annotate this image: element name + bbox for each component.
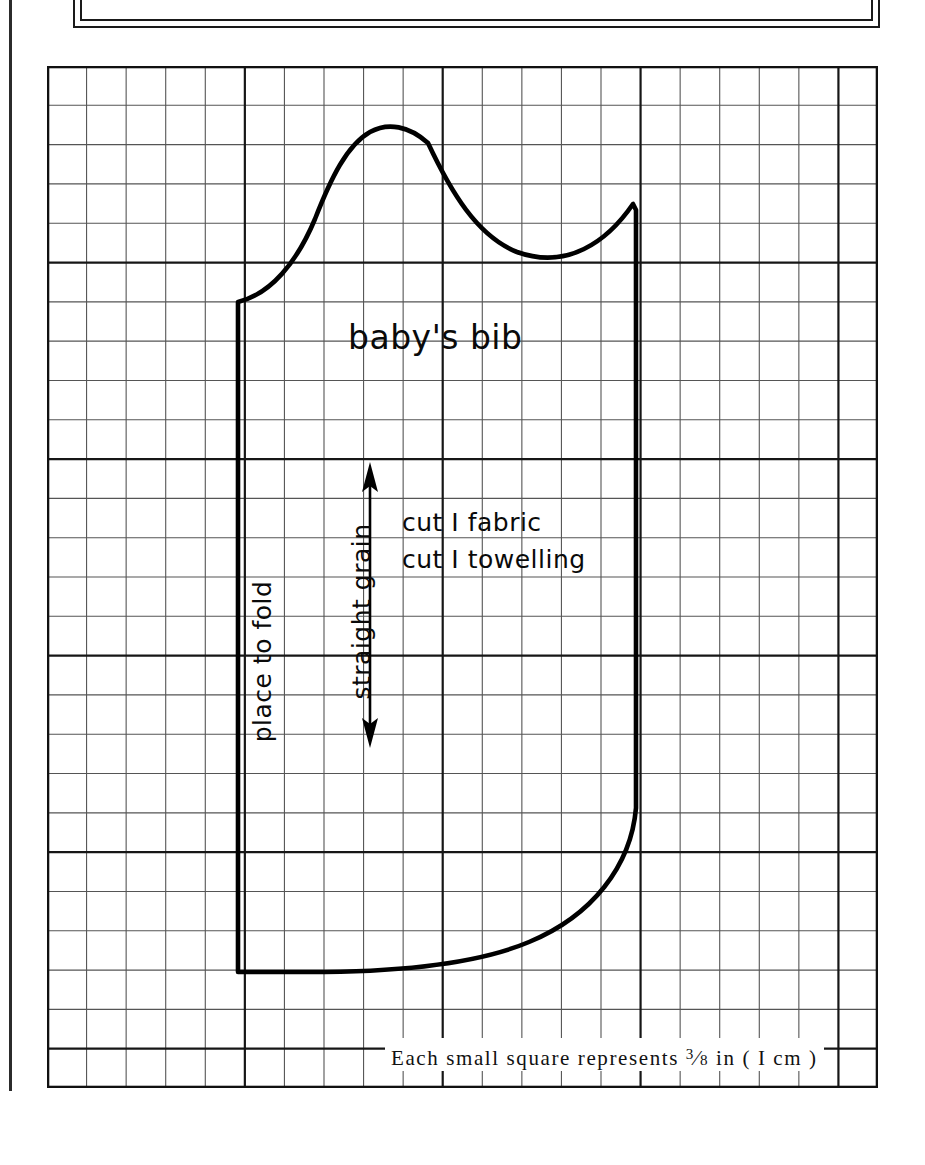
scale-caption: Each small square represents 3⁄8 in ( I …: [385, 1038, 824, 1071]
straight-grain-arrow: [47, 66, 878, 1088]
caption-fraction-denominator: 8: [700, 1052, 709, 1068]
top-border-frame: [73, 0, 880, 28]
caption-fraction-numerator: 3: [686, 1046, 695, 1062]
left-margin-rule: [9, 0, 12, 1091]
caption-text-after: in ( I cm ): [709, 1046, 817, 1070]
pattern-grid-sheet: [47, 66, 878, 1088]
place-to-fold-label: place to fold: [248, 581, 277, 743]
caption-text-before: Each small square represents: [391, 1046, 686, 1070]
top-border-frame-inner: [80, 0, 873, 21]
pattern-title-label: baby's bib: [348, 318, 522, 357]
straight-grain-label: straight grain: [347, 523, 376, 699]
cut-instruction-fabric: cut I fabric: [402, 508, 542, 537]
cut-instruction-towelling: cut I towelling: [402, 545, 586, 574]
